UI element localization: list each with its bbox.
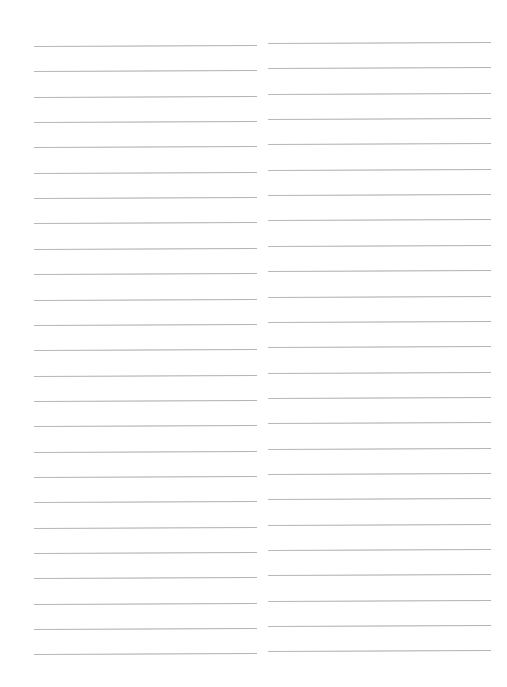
ruled-line [268,169,491,171]
ruled-line [268,143,491,145]
ruled-line [268,321,491,323]
ruled-line [34,70,257,72]
ruled-line [268,422,491,424]
ruled-line [34,324,257,326]
ruled-line [268,118,491,120]
ruled-line [34,121,257,123]
ruled-line [268,650,491,652]
ruled-line [34,501,257,503]
ruled-line [34,222,257,224]
ruled-line [34,400,257,402]
ruled-line [34,299,257,301]
ruled-line [34,248,257,250]
ruled-line [268,549,491,551]
ruled-line [34,603,257,605]
ruled-line [268,346,491,348]
ruled-line [34,96,257,98]
ruled-paper-page [0,0,507,687]
ruled-line [268,67,491,69]
ruled-line [268,194,491,196]
ruled-line [268,448,491,450]
ruled-line [268,498,491,500]
ruled-line [268,219,491,221]
ruled-line [268,245,491,247]
ruled-line [268,600,491,602]
ruled-line [34,451,257,453]
ruled-line [34,375,257,377]
ruled-line [34,527,257,529]
ruled-line [34,273,257,275]
ruled-line [268,42,491,44]
ruled-line [268,296,491,298]
ruled-line [34,653,257,655]
ruled-line [34,349,257,351]
ruled-line [34,476,257,478]
ruled-line [34,577,257,579]
ruled-line [268,473,491,475]
ruled-line [268,574,491,576]
ruled-line [268,397,491,399]
ruled-line [268,524,491,526]
ruled-line [268,93,491,95]
ruled-line [268,372,491,374]
ruled-line [268,625,491,627]
ruled-line [34,172,257,174]
ruled-line [34,146,257,148]
ruled-line [34,425,257,427]
ruled-line [34,197,257,199]
ruled-line [34,45,257,47]
ruled-line [34,628,257,630]
ruled-line [268,270,491,272]
ruled-line [34,552,257,554]
